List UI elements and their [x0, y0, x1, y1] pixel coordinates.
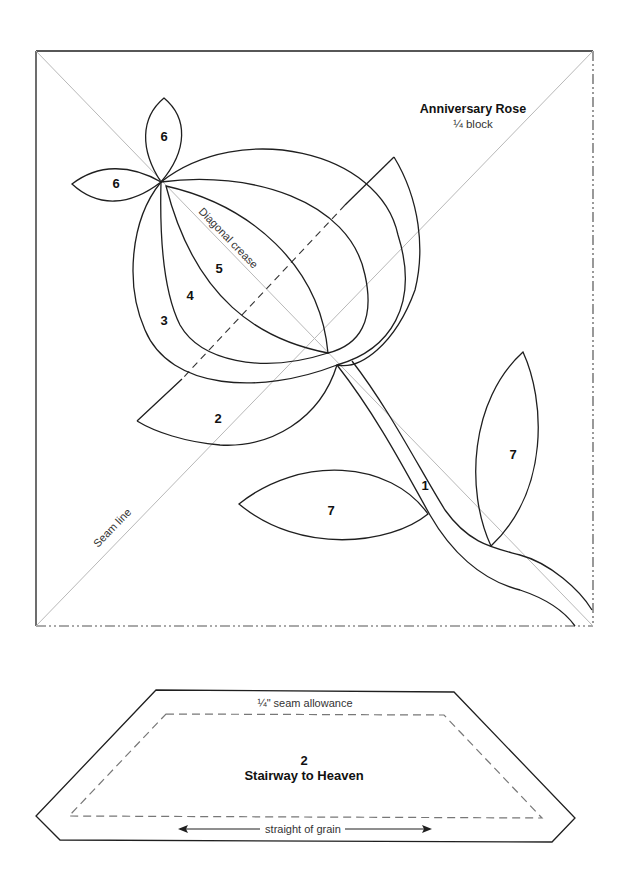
diagonal-crease-label: Diagonal crease: [197, 205, 261, 271]
grain-arrow: straight of grain: [178, 823, 432, 835]
template-piece-number: 2: [300, 753, 307, 768]
piece-2-top-edge: [345, 157, 394, 205]
grain-label: straight of grain: [265, 823, 341, 835]
piece-number-5: 5: [215, 261, 222, 276]
seam-allowance-label: ¼" seam allowance: [257, 697, 352, 709]
guide-lines: [36, 51, 593, 626]
template-piece-name: Stairway to Heaven: [244, 768, 363, 783]
piece-number-1: 1: [421, 478, 428, 493]
piece-number-3: 3: [160, 313, 167, 328]
pattern-sheet: Anniversary Rose ¼ block Diagonal crease…: [0, 0, 623, 886]
piece-number-2: 2: [214, 411, 221, 426]
block-title: Anniversary Rose: [420, 102, 526, 116]
piece-number-4: 4: [186, 288, 194, 303]
leaf-7-upper-shape: [476, 352, 539, 546]
piece-number-7-upper: 7: [509, 447, 516, 462]
seam-line-label: Seam line: [91, 506, 134, 550]
piece-2-placement-dashed-line: [182, 205, 345, 379]
petal-4-shape: [161, 179, 368, 363]
piece-number-7-lower: 7: [327, 503, 334, 518]
block-subtitle: ¼ block: [453, 118, 493, 130]
petal-3-shape: [133, 149, 405, 383]
piece-number-6-top: 6: [160, 129, 167, 144]
piece-number-6-left: 6: [112, 176, 119, 191]
template-stairway-to-heaven: ¼" seam allowance 2 Stairway to Heaven s…: [36, 690, 575, 842]
